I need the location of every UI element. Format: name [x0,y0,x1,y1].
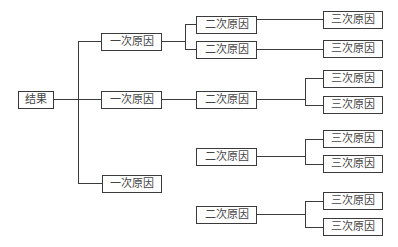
connector [78,41,101,42]
level2-node: 二次原因 [196,16,257,34]
level2-node: 二次原因 [196,91,257,109]
connector [257,156,305,157]
level3-node: 三次原因 [323,130,383,148]
level3-node: 三次原因 [323,40,383,58]
level3-node: 三次原因 [323,96,383,114]
connector [305,201,306,228]
level3-node: 三次原因 [323,155,383,173]
level1-node: 一次原因 [102,175,162,193]
connector [305,139,323,140]
level1-node: 一次原因 [101,33,162,51]
connector [257,99,305,100]
connector [305,105,323,106]
connector [305,139,306,165]
level3-node: 三次原因 [323,218,383,236]
connector [78,99,101,100]
level2-node: 二次原因 [196,41,257,59]
connector [185,49,196,50]
root-node: 结果 [18,91,54,109]
level2-node: 二次原因 [196,206,257,224]
connector [78,183,102,184]
connector [257,19,323,20]
connector [305,78,323,79]
connector [78,41,79,184]
connector [305,78,306,106]
level3-node: 三次原因 [323,70,383,88]
connector [162,99,196,100]
level3-node: 三次原因 [323,11,383,29]
connector [54,99,78,100]
connector [257,49,323,50]
level1-node: 一次原因 [101,91,162,109]
level2-node: 二次原因 [196,148,257,166]
connector [257,214,305,215]
connector [305,201,323,202]
connector [305,227,323,228]
connector [305,164,323,165]
connector [185,24,196,25]
level3-node: 三次原因 [323,192,383,210]
connector [162,41,185,42]
connector [185,24,186,50]
